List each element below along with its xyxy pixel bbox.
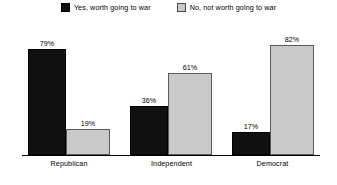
bar-independent-yes[interactable] [130, 106, 168, 154]
legend-label-no: No, not worth going to war [190, 3, 277, 12]
bar-value-republican-no: 19% [66, 119, 110, 128]
x-axis-baseline [22, 155, 320, 157]
bar-democrat-no[interactable] [270, 45, 314, 155]
bar-group-republican: 79% 19% [28, 21, 110, 155]
legend-item-no: No, not worth going to war [177, 3, 277, 12]
legend-label-yes: Yes, worth going to war [74, 3, 151, 12]
bar-value-republican-yes: 79% [28, 39, 66, 48]
bar-value-democrat-no: 82% [270, 35, 314, 44]
category-label-republican: Republican [28, 159, 110, 169]
bar-groups: 79% 19% 36% 61% 17% [0, 21, 337, 155]
bar-slot-republican-yes: 79% [28, 21, 66, 155]
bar-democrat-yes[interactable] [232, 132, 270, 155]
bar-slot-independent-yes: 36% [130, 21, 168, 155]
bar-group-democrat: 17% 82% [232, 21, 313, 155]
category-label-democrat: Democrat [232, 159, 313, 169]
bar-slot-independent-no: 61% [168, 21, 212, 155]
x-axis-category-labels: Republican Independent Democrat [0, 159, 337, 171]
chart-legend: Yes, worth going to war No, not worth go… [0, 3, 337, 12]
legend-item-yes: Yes, worth going to war [61, 3, 151, 12]
legend-swatch-no-icon [177, 3, 186, 12]
bar-value-democrat-yes: 17% [232, 122, 270, 131]
bar-slot-democrat-no: 82% [270, 21, 314, 155]
bar-slot-republican-no: 19% [66, 21, 110, 155]
bar-group-independent: 36% 61% [130, 21, 213, 155]
category-label-independent: Independent [130, 159, 213, 169]
bar-value-independent-no: 61% [168, 63, 212, 72]
bar-republican-yes[interactable] [28, 49, 66, 155]
bar-republican-no[interactable] [66, 129, 110, 154]
bar-independent-no[interactable] [168, 73, 212, 155]
legend-swatch-yes-icon [61, 3, 70, 12]
bar-value-independent-yes: 36% [130, 96, 168, 105]
bar-slot-democrat-yes: 17% [232, 21, 270, 155]
chart-plot-area: 79% 19% 36% 61% 17% [0, 20, 337, 156]
